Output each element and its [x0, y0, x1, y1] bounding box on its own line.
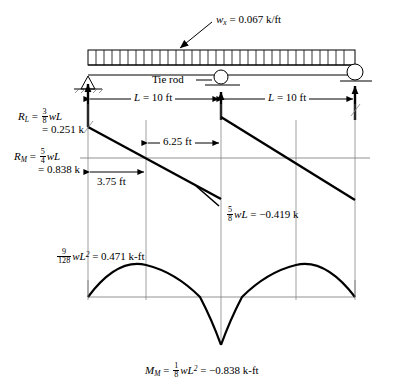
shear-curve-right-span — [221, 117, 355, 200]
moment-positive-numerator: 9 — [57, 248, 71, 256]
reaction-left-equals: = — [32, 110, 38, 122]
roller-support-middle — [205, 70, 240, 85]
moment-positive-denominator: 128 — [57, 256, 71, 265]
span-label-right: L = 10 ft — [265, 92, 309, 103]
shear-min-fraction: 5 8 — [227, 206, 233, 224]
moment-diagram — [88, 264, 355, 345]
shear-curve-left-span — [88, 127, 221, 199]
tie-rod-label: Tie rod — [152, 74, 184, 85]
moment-negative-symbol: M — [145, 364, 154, 376]
moment-negative-w: w — [180, 364, 187, 376]
reaction-left-subscript: L — [25, 115, 29, 124]
diagram-canvas — [0, 0, 402, 387]
moment-negative-label: MM = 1 8 wL2 = −0.838 k-ft — [145, 362, 259, 380]
reference-gridlines — [88, 104, 355, 345]
moment-negative-value: = −0.838 k-ft — [200, 364, 259, 376]
moment-negative-fraction: 1 8 — [173, 362, 179, 380]
distributed-load-block — [88, 50, 355, 65]
shear-min-numerator: 5 — [227, 206, 233, 214]
span-left-value: = 10 ft — [143, 91, 172, 103]
span-left-symbol: L — [134, 91, 140, 103]
moment-positive-value: = 0.471 k-ft — [92, 250, 144, 262]
shear-min-term: wL — [234, 208, 247, 220]
moment-negative-numerator: 1 — [173, 362, 179, 370]
distributed-load-label: wx = 0.067 k/ft — [216, 14, 281, 27]
span-right-value: = 10 ft — [277, 91, 306, 103]
moment-negative-denominator: 8 — [173, 370, 179, 379]
span-label-left: L = 10 ft — [131, 92, 175, 103]
shear-diagram — [80, 104, 370, 206]
shear-minimum-label: 5 8 wL = −0.419 k — [226, 206, 298, 224]
load-symbol-subscript: x — [223, 18, 226, 27]
reaction-left-numerator: 3 — [42, 108, 48, 116]
moment-negative-exponent: 2 — [194, 364, 198, 373]
moment-positive-exponent: 2 — [86, 250, 90, 259]
reaction-middle-equals: = — [30, 150, 36, 162]
reaction-middle-numerator: 5 — [40, 148, 46, 156]
load-value: = 0.067 k/ft — [229, 13, 281, 25]
reaction-left-value: = 0.251 k — [42, 124, 84, 135]
dimension-label-625: 6.25 ft — [160, 136, 195, 147]
reaction-middle-term: wL — [47, 150, 60, 162]
moment-negative-equals: = — [163, 364, 169, 376]
reaction-middle-symbol: R — [14, 150, 21, 162]
roller-support-right — [340, 64, 372, 81]
reaction-left-symbol: R — [18, 110, 25, 122]
moment-negative-subscript: M — [154, 369, 160, 378]
moment-curve-right-span — [221, 264, 355, 345]
span-right-symbol: L — [268, 91, 274, 103]
moment-positive-w: w — [72, 250, 79, 262]
moment-positive-fraction: 9 128 — [57, 248, 71, 266]
load-leader-arrow — [180, 22, 212, 48]
shear-min-value: = −0.419 k — [250, 208, 298, 220]
reaction-left-term: wL — [49, 110, 62, 122]
shear-min-denominator: 8 — [227, 214, 233, 223]
moment-curve-left-span — [88, 264, 221, 345]
beam-diagram-figure: wx = 0.067 k/ft Tie rod L = 10 ft L = 10… — [0, 0, 402, 387]
dimension-label-375: 3.75 ft — [97, 176, 126, 187]
reaction-middle-subscript: M — [21, 155, 27, 164]
reaction-middle-value: = 0.838 k — [38, 164, 80, 175]
moment-positive-label: 9 128 wL2 = 0.471 k-ft — [56, 248, 144, 266]
